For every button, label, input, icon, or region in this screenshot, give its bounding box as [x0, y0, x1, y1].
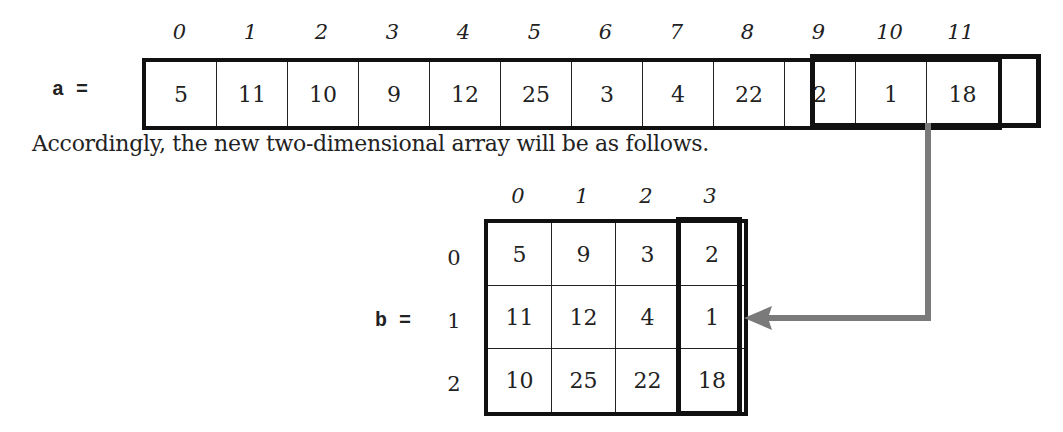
mapping-arrow-icon [0, 0, 1063, 432]
